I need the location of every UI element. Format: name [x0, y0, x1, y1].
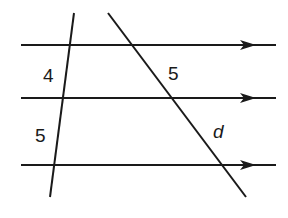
parallel-line-bottom: [21, 160, 276, 170]
label-right-upper: 5: [168, 63, 179, 84]
label-right-lower-d: d: [213, 121, 225, 142]
label-left-upper: 4: [43, 65, 54, 86]
parallel-line-top: [21, 40, 276, 50]
transversal-left: [50, 13, 74, 197]
parallel-lines-diagram: 4 5 5 d: [0, 0, 288, 218]
transversal-right: [108, 13, 246, 197]
parallel-line-middle: [21, 93, 276, 103]
label-left-lower: 5: [35, 125, 46, 146]
